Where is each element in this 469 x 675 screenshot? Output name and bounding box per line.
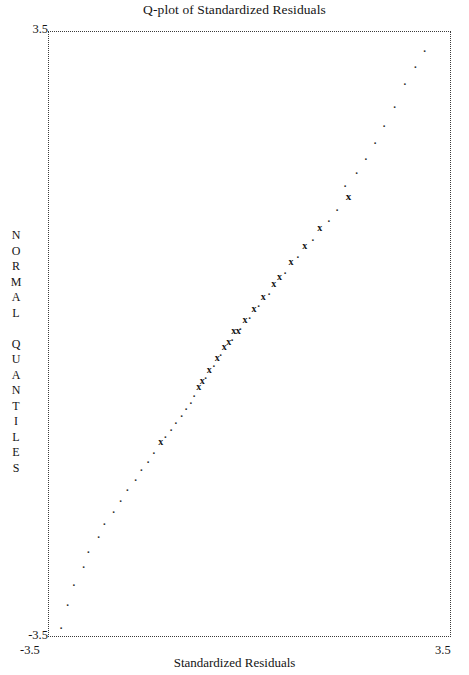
data-point: x [346,190,352,201]
data-point: . [180,407,183,418]
data-point: . [73,576,76,587]
data-point: x [158,437,163,447]
data-point: . [268,285,271,296]
data-point: . [170,421,173,432]
x-axis-title: Standardized Residuals [0,655,469,671]
data-point: . [185,400,188,411]
data-point: . [147,453,150,464]
data-point: . [328,213,331,224]
data-point: . [82,559,85,570]
y-axis-title-char: R [6,259,26,275]
y-axis-tick-top: 3.5 [32,22,48,37]
data-point: . [189,394,192,405]
data-point: x [317,223,322,233]
data-point: x [261,292,266,302]
data-point: . [364,150,367,161]
y-axis-tick-bottom: -3.5 [28,628,48,643]
data-point: . [311,232,314,243]
qq-plot-figure: Q-plot of Standardized Residuals .......… [0,0,469,675]
y-axis-title-char: L [6,430,26,446]
y-axis-title-char: U [6,352,26,368]
data-point: . [248,310,251,321]
chart-title: Q-plot of Standardized Residuals [0,2,469,18]
data-point: . [404,76,407,87]
y-axis-title-char: L [6,306,26,322]
data-point: . [174,414,177,425]
y-axis-title-char: I [6,414,26,430]
data-point: . [153,445,156,456]
data-point: . [193,387,196,398]
data-point: x [271,279,276,289]
data-point: . [383,117,386,128]
data-point: . [284,264,287,275]
y-axis-title-char: A [6,290,26,306]
y-axis-title-char: N [6,383,26,399]
y-axis-title-char: E [6,445,26,461]
y-axis-title-char: O [6,244,26,260]
data-point: . [126,482,129,493]
y-axis-title-char: S [6,461,26,477]
data-point: . [239,321,242,332]
y-axis-title-char: T [6,399,26,415]
data-point: . [119,492,122,503]
data-point: . [257,297,260,308]
data-point: x [277,272,282,282]
plot-area: ..............x.......xx.x.x.xx.xx.x.x.x… [48,31,451,637]
data-point: . [344,178,347,189]
data-point: x [252,304,257,314]
data-point: x [289,257,294,267]
data-point: . [414,58,417,69]
data-point-layer: ..............x.......xx.x.x.xx.xx.x.x.x… [48,31,451,637]
data-point: . [355,165,358,176]
data-point: . [103,516,106,527]
y-axis-title-char: Q [6,337,26,353]
data-point: x [207,365,212,375]
data-point: x [302,241,307,251]
data-point: . [97,529,100,540]
data-point: . [374,135,377,146]
data-point: . [140,462,143,473]
data-point: . [112,503,115,514]
y-axis-title-char: M [6,275,26,291]
data-point: . [164,429,167,440]
data-point: . [60,619,63,630]
data-point: . [423,43,426,54]
data-point: . [336,201,339,212]
y-axis-title: NORMAL QUANTILES [6,228,26,476]
y-axis-title-char: A [6,368,26,384]
data-point: . [66,597,69,608]
data-point: . [87,543,90,554]
data-point: . [297,249,300,260]
data-point: . [393,98,396,109]
data-point: x [242,315,247,325]
y-axis-title-char: N [6,228,26,244]
data-point: . [134,471,137,482]
